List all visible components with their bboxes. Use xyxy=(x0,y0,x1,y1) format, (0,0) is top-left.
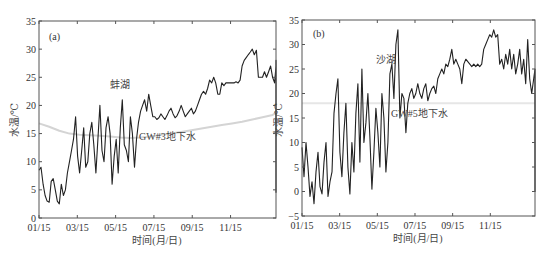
y-tick-label: 10 xyxy=(289,137,299,148)
y-tick-label: 30 xyxy=(289,39,299,50)
panel-a-label: (a) xyxy=(49,31,60,43)
panel-b-gw-label: GW#5地下水 xyxy=(391,107,448,119)
x-tick-label: 11/15 xyxy=(219,222,241,233)
y-tick-label: 15 xyxy=(26,128,36,139)
figure: 05101520253035 01/1503/1505/1507/1509/15… xyxy=(0,0,545,256)
x-tick-label: 03/15 xyxy=(66,222,89,233)
y-tick-label: 25 xyxy=(26,72,36,83)
panel-a-x-axis-title: 时间(月/日) xyxy=(132,234,181,247)
lake-temperature-line xyxy=(39,49,276,204)
x-tick-label: 05/15 xyxy=(104,222,127,233)
panel-a-y-axis-title: 水温/℃ xyxy=(9,103,20,137)
y-tick-label: 25 xyxy=(289,64,299,75)
panel-a-gw-label: GW#3地下水 xyxy=(139,130,196,142)
x-tick-label: 03/15 xyxy=(328,220,351,231)
x-tick-label: 09/15 xyxy=(181,222,204,233)
x-tick-label: 05/15 xyxy=(366,220,389,231)
y-tick-label: 15 xyxy=(289,113,299,124)
panel-a-series xyxy=(39,49,276,204)
y-tick-label: 20 xyxy=(26,100,36,111)
y-tick-label: 5 xyxy=(31,184,36,195)
y-tick-label: 0 xyxy=(294,186,299,197)
panel-b-chart: −505101520253035 01/1503/1505/1507/1509/… xyxy=(273,15,535,246)
panel-b-y-axis-title: 水温/℃ xyxy=(273,103,284,137)
y-tick-label: 35 xyxy=(289,15,299,26)
panel-a-lake-label: 蚌湖 xyxy=(110,79,130,90)
x-tick-label: 01/15 xyxy=(28,222,51,233)
panel-a-chart: 05101520253035 01/1503/1505/1507/1509/15… xyxy=(9,16,276,248)
panel-b-x-axis-title: 时间(月/日) xyxy=(393,232,442,245)
y-tick-label: 20 xyxy=(289,88,299,99)
panel-b-lake-label: 沙湖 xyxy=(376,54,396,65)
x-tick-label: 01/15 xyxy=(291,220,314,231)
x-tick-label: 07/15 xyxy=(404,220,427,231)
x-tick-label: 07/15 xyxy=(143,222,166,233)
x-tick-label: 11/15 xyxy=(479,220,501,231)
panel-b-label: (b) xyxy=(313,28,325,40)
y-tick-label: 10 xyxy=(26,156,36,167)
x-tick-label: 09/15 xyxy=(441,220,464,231)
y-tick-label: 5 xyxy=(294,162,299,173)
y-tick-label: 35 xyxy=(26,16,36,27)
panel-a-y-axis: 05101520253035 xyxy=(26,16,276,224)
y-tick-label: 30 xyxy=(26,44,36,55)
